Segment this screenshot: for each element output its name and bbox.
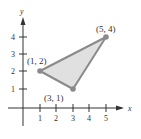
y-axis-label: y (19, 7, 24, 16)
point-5-4 (103, 34, 109, 40)
x-axis-arrow-icon (116, 106, 124, 111)
y-tick-label: 4 (11, 33, 15, 42)
coordinate-plot: x y 1 2 3 4 5 1 2 3 4 (1, 2) (3, 1) (5, … (0, 0, 141, 139)
point-1-2 (37, 68, 43, 74)
point-label-3-1: (3, 1) (44, 93, 64, 103)
x-tick-label: 4 (87, 114, 91, 123)
x-axis-label: x (127, 104, 132, 113)
point-3-1 (70, 86, 76, 92)
point-label-5-4: (5, 4) (96, 24, 116, 34)
x-tick-label: 5 (104, 114, 108, 123)
triangle-region (40, 37, 106, 89)
point-label-1-2: (1, 2) (27, 56, 47, 66)
x-tick-label: 3 (71, 114, 75, 123)
y-tick-label: 2 (11, 67, 15, 76)
y-tick-label: 3 (11, 50, 15, 59)
x-tick-label: 2 (54, 114, 58, 123)
x-tick-label: 1 (38, 114, 42, 123)
y-axis-arrow-icon (21, 17, 26, 25)
y-tick-label: 1 (11, 85, 15, 94)
